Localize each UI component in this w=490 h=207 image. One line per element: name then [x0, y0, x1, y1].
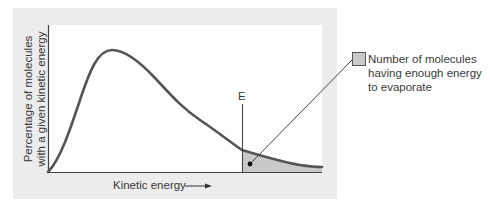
legend-line3: to evaporate	[368, 80, 482, 94]
x-axis-label: Kinetic energy	[113, 179, 186, 191]
y-axis-label: Percentage of molecules with a given kin…	[22, 14, 47, 184]
threshold-label-e: E	[238, 90, 246, 102]
y-axis-label-line1: Percentage of molecules	[22, 14, 35, 184]
leader-line	[250, 60, 352, 164]
y-axis-label-line2: with a given kinetic energy	[34, 14, 47, 184]
energy-distribution-curve	[48, 50, 322, 172]
arrow-right-icon	[185, 184, 212, 189]
legend-line1: Number of molecules	[368, 52, 482, 66]
leader-dot	[248, 162, 253, 167]
legend-line2: having enough energy	[368, 66, 482, 80]
legend-swatch	[353, 53, 366, 66]
legend-text: Number of molecules having enough energy…	[368, 52, 482, 94]
distribution-diagram	[0, 0, 490, 207]
